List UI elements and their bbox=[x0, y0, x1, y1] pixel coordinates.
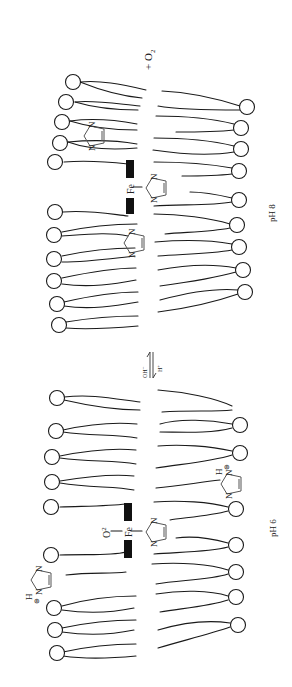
top-free-imidazole-1: N N bbox=[84, 121, 104, 151]
positive-charge-icon: ⊕ bbox=[33, 598, 41, 604]
top-porphyrin: Fe bbox=[125, 160, 142, 214]
lipid bbox=[66, 75, 147, 99]
lipid bbox=[154, 537, 244, 554]
ph8-label: pH 8 bbox=[267, 204, 277, 222]
porphyrin-edge-upper bbox=[126, 160, 134, 178]
lipid bbox=[47, 224, 138, 243]
lipid bbox=[66, 572, 126, 575]
plus-o-text: + O bbox=[142, 53, 154, 70]
lipid bbox=[152, 563, 244, 584]
bottom-protonated-imidazole-right: N N H ⊕ bbox=[214, 464, 241, 499]
o2-subscript: 2 bbox=[149, 49, 157, 53]
fe-label: Fe bbox=[125, 183, 136, 194]
imidazole-n3-label: N bbox=[149, 173, 159, 180]
bottom-panel-bilayer: Fe O2 N N N N H ⊕ N N bbox=[24, 390, 278, 661]
lipid bbox=[48, 205, 129, 220]
bottom-left-leaflet bbox=[44, 391, 141, 661]
lipid bbox=[154, 501, 244, 520]
porphyrin-edge-lower bbox=[124, 540, 132, 558]
lipid bbox=[45, 475, 135, 491]
lipid bbox=[44, 500, 127, 515]
bottom-bound-imidazole: N N bbox=[146, 517, 166, 547]
lipid bbox=[158, 618, 246, 649]
imidazole-n3-label: N bbox=[34, 565, 44, 572]
lipid bbox=[44, 548, 127, 563]
top-right-leaflet bbox=[153, 91, 255, 312]
lipid bbox=[52, 316, 139, 333]
imidazole-n3-label: N bbox=[87, 121, 97, 128]
imidazole-n3-label: N bbox=[127, 228, 137, 235]
lipid bbox=[156, 590, 244, 613]
svg-text:O2: O2 bbox=[100, 527, 112, 538]
lipid bbox=[50, 391, 141, 411]
imidazole-n1-label: N bbox=[149, 196, 159, 203]
porphyrin-edge-lower bbox=[126, 198, 134, 214]
imidazole-n1-label: N bbox=[87, 144, 97, 151]
imidazole-n1-label: N bbox=[34, 588, 44, 595]
lipid bbox=[154, 162, 247, 179]
lipid bbox=[156, 445, 248, 468]
lipid bbox=[50, 292, 139, 312]
imidazole-n1-label: N bbox=[224, 492, 234, 499]
imidazole-n1-label: N bbox=[149, 540, 159, 547]
porphyrin-edge-upper bbox=[124, 503, 132, 521]
lipid bbox=[158, 285, 253, 313]
proton-label: H+ bbox=[156, 365, 163, 372]
imidazole-n1-label: N bbox=[127, 251, 137, 258]
svg-text:+ O2: + O2 bbox=[142, 49, 157, 70]
lipid bbox=[48, 620, 137, 638]
lipid bbox=[59, 95, 141, 111]
lipid bbox=[48, 155, 129, 170]
equilibrium-arrows: OH− H+ bbox=[141, 352, 163, 378]
lipid bbox=[158, 390, 248, 433]
lipid bbox=[155, 240, 247, 257]
lipid bbox=[47, 268, 137, 289]
hydroxide-label: OH− bbox=[141, 366, 148, 378]
lipid bbox=[158, 91, 255, 115]
released-oxygen-label: + O2 bbox=[142, 49, 157, 70]
bottom-porphyrin: Fe O2 bbox=[100, 503, 142, 558]
lipid bbox=[160, 420, 232, 432]
lipid bbox=[50, 644, 137, 661]
lipid-bilayer-diagram: Fe N N N N N N + O2 pH 8 bbox=[0, 0, 292, 687]
bound-oxygen-label: O2 bbox=[100, 527, 112, 538]
lipid bbox=[156, 480, 220, 488]
top-free-imidazole-2: N N bbox=[124, 228, 144, 258]
top-panel-bilayer: Fe N N N N N N + O2 pH 8 bbox=[47, 49, 278, 332]
bottom-right-leaflet bbox=[152, 390, 248, 648]
lipid bbox=[154, 192, 247, 208]
lipid bbox=[158, 263, 251, 287]
lipid bbox=[47, 596, 137, 616]
imidazole-n3-label: N bbox=[149, 517, 159, 524]
fe-label: Fe bbox=[123, 526, 134, 537]
o-text: O bbox=[101, 531, 112, 538]
lipid bbox=[156, 116, 249, 136]
lipid bbox=[49, 423, 138, 438]
bottom-protonated-imidazole-left: N N H ⊕ bbox=[24, 565, 51, 604]
positive-charge-icon: ⊕ bbox=[223, 464, 231, 470]
lipid bbox=[153, 138, 249, 157]
o2-subscript: 2 bbox=[100, 527, 108, 531]
lipid bbox=[45, 449, 137, 464]
ph6-label: pH 6 bbox=[268, 519, 278, 537]
lipid bbox=[154, 214, 245, 234]
top-bound-imidazole: N N bbox=[146, 173, 166, 203]
lipid bbox=[47, 248, 136, 267]
